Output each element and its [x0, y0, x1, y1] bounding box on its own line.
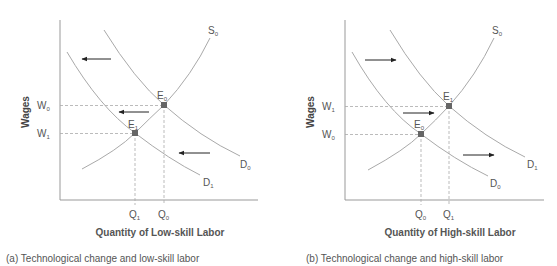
demand-curve-lower: [67, 52, 200, 175]
point-upper-label: E1: [443, 91, 454, 103]
equilibrium-point-upper: [161, 102, 167, 108]
wage-tick-upper: W1: [322, 101, 335, 113]
point-lower-label: E1: [128, 119, 139, 131]
supply-curve: [82, 38, 210, 169]
point-lower-label: E0: [414, 119, 425, 131]
supply-curve: [368, 38, 494, 170]
demand-lower-label: D1: [203, 177, 214, 189]
wage-tick-lower: W0: [322, 129, 335, 141]
y-axis-label: Wages: [305, 96, 316, 128]
panel-caption: (b) Technological change and high-skill …: [306, 253, 504, 264]
qty-tick-left: Q1: [129, 209, 141, 221]
diagram-canvas: S0 D0 D1 E0 E1 W0 W1 Q1 Q0 Wages Quantit…: [0, 0, 557, 266]
panel-b: S0 D1 D0 E1 E0 W1 W0 Q0 Q1 Wages Quantit…: [305, 20, 544, 264]
qty-tick-left: Q0: [415, 209, 427, 221]
x-axis-label: Quantity of High-skill Labor: [384, 227, 515, 238]
demand-curve-lower: [352, 52, 488, 176]
supply-label: S0: [492, 25, 503, 37]
supply-label: S0: [208, 25, 219, 37]
point-upper-label: E0: [157, 90, 168, 102]
panel-caption: (a) Technological change and low-skill l…: [6, 253, 200, 264]
demand-curve-upper: [104, 30, 240, 156]
wage-tick-upper: W0: [37, 100, 50, 112]
panel-a: S0 D0 D1 E0 E1 W0 W1 Q1 Q0 Wages Quantit…: [6, 20, 258, 264]
wage-tick-lower: W1: [37, 128, 50, 140]
x-axis-label: Quantity of Low-skill Labor: [96, 227, 225, 238]
y-axis-label: Wages: [20, 96, 31, 128]
equilibrium-point-lower: [418, 131, 424, 137]
demand-upper-label: D0: [240, 159, 251, 171]
equilibrium-point-upper: [446, 103, 452, 109]
demand-lower-label: D0: [490, 178, 501, 190]
qty-tick-right: Q1: [443, 209, 455, 221]
demand-upper-label: D1: [527, 159, 538, 171]
demand-curve-upper: [390, 30, 525, 157]
qty-tick-right: Q0: [158, 209, 170, 221]
